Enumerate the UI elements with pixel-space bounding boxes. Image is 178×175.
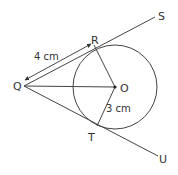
label-r: R (91, 34, 99, 47)
diagram-canvas: Q O R T S U 4 cm 3 cm (0, 0, 178, 175)
label-s: S (158, 10, 165, 23)
tangent-line-qu (24, 86, 158, 156)
radius-or (94, 45, 115, 87)
label-q: Q (13, 80, 22, 93)
label-t: T (87, 131, 95, 144)
label-o: O (120, 82, 129, 95)
measurement-qr: 4 cm (34, 51, 59, 62)
label-u: U (159, 153, 167, 166)
center-point-o (113, 85, 116, 88)
tangent-circle-diagram: Q O R T S U 4 cm 3 cm (0, 0, 178, 175)
line-qo (24, 86, 115, 87)
measurement-ot: 3 cm (106, 103, 131, 114)
